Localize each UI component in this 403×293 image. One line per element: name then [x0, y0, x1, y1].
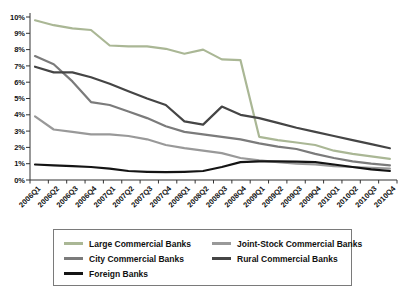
y-tick-label: 9% — [14, 29, 25, 38]
legend-item-city-commercial-banks: City Commercial Banks — [64, 254, 212, 264]
y-tick-label: 3% — [14, 127, 25, 136]
x-tick-label: 2010Q4 — [372, 183, 398, 209]
series-line-joint-stock-commercial-banks — [35, 116, 390, 168]
legend-swatch-rural-commercial-banks — [212, 257, 231, 260]
y-tick-label: 4% — [14, 110, 25, 119]
chart-legend: Large Commercial Banks Joint-Stock Comme… — [53, 229, 352, 286]
y-tick-label: 0% — [14, 176, 25, 185]
legend-item-joint-stock-commercial-banks: Joint-Stock Commercial Banks — [212, 239, 362, 249]
y-tick-label: 8% — [14, 45, 25, 54]
legend-label: City Commercial Banks — [89, 254, 184, 264]
y-tick-label: 6% — [14, 78, 25, 87]
bank-npl-ratio-chart: 0%1%2%3%4%5%6%7%8%9%10%2006Q12006Q22006Q… — [0, 0, 403, 293]
legend-label: Rural Commercial Banks — [237, 254, 338, 264]
series-line-large-commercial-banks — [35, 20, 390, 159]
y-tick-label: 1% — [14, 159, 25, 168]
legend-swatch-joint-stock-commercial-banks — [212, 242, 231, 245]
line-chart-plot-area: 0%1%2%3%4%5%6%7%8%9%10%2006Q12006Q22006Q… — [0, 0, 403, 224]
series-line-city-commercial-banks — [35, 56, 390, 165]
legend-item-large-commercial-banks: Large Commercial Banks — [64, 239, 212, 249]
y-tick-label: 2% — [14, 143, 25, 152]
legend-swatch-foreign-banks — [64, 272, 83, 275]
legend-label: Foreign Banks — [89, 269, 148, 279]
y-tick-label: 5% — [14, 94, 25, 103]
legend-swatch-large-commercial-banks — [64, 242, 83, 245]
legend-swatch-city-commercial-banks — [64, 257, 83, 260]
y-tick-label: 10% — [10, 13, 25, 22]
legend-item-rural-commercial-banks: Rural Commercial Banks — [212, 254, 362, 264]
legend-label: Large Commercial Banks — [89, 239, 191, 249]
legend-label: Joint-Stock Commercial Banks — [237, 239, 362, 249]
legend-item-foreign-banks: Foreign Banks — [64, 269, 212, 279]
y-tick-label: 7% — [14, 62, 25, 71]
